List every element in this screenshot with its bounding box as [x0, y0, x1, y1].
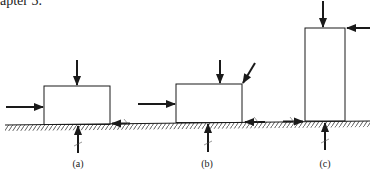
- panel-a: [6, 60, 130, 153]
- block-a: [44, 86, 110, 125]
- force-diagram: [0, 0, 372, 176]
- panel-label-a: (a): [72, 158, 83, 169]
- panel-label-c: (c): [319, 158, 330, 169]
- block-c: [305, 28, 345, 121]
- block-b: [176, 84, 242, 123]
- panel-c: [305, 1, 370, 150]
- panel-label-b: (b): [201, 158, 213, 169]
- inclined-load-arrow-icon: [243, 63, 255, 83]
- panel-b: [138, 60, 303, 152]
